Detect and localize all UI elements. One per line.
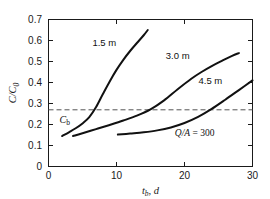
flux-annotation: Q/A = 300 [175, 128, 215, 138]
x-axis-tick-labels: 0102030 [46, 170, 259, 181]
y-tick-label: 0.6 [28, 35, 42, 46]
y-tick-label: 0.5 [28, 56, 42, 67]
annotations-group: Q/A = 300 [175, 128, 215, 138]
x-tick-label: 10 [111, 170, 123, 181]
breakthrough-curve-chart: 00.10.20.30.40.50.60.7 0102030 Cb 1.5 m3… [0, 0, 270, 198]
data-curve [118, 80, 253, 134]
x-tick-label: 30 [247, 170, 259, 181]
y-axis-label: C/C0 [7, 82, 21, 103]
threshold-label: Cb [60, 114, 71, 128]
y-tick-label: 0.1 [28, 140, 42, 151]
data-curves-group [62, 30, 252, 136]
data-curve [73, 53, 239, 136]
axis-tick-marks [49, 20, 253, 167]
y-tick-label: 0 [36, 161, 42, 172]
curve-label: 4.5 m [198, 75, 222, 86]
y-tick-label: 0.7 [28, 14, 42, 25]
x-axis-label: tb, d [142, 185, 160, 199]
y-tick-label: 0.2 [28, 119, 42, 130]
y-tick-label: 0.4 [28, 77, 42, 88]
y-tick-label: 0.3 [28, 98, 42, 109]
x-tick-label: 20 [179, 170, 191, 181]
threshold-line-group: Cb [49, 110, 253, 128]
y-axis-tick-labels: 00.10.20.30.40.50.60.7 [28, 14, 42, 172]
chart-figure: 00.10.20.30.40.50.60.7 0102030 Cb 1.5 m3… [0, 0, 270, 198]
curve-label: 1.5 m [92, 37, 116, 48]
x-tick-label: 0 [46, 170, 52, 181]
plot-frame [49, 20, 253, 167]
curve-label: 3.0 m [166, 50, 190, 61]
